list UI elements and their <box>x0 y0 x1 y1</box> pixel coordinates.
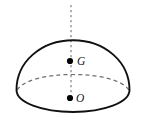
hemisphere-diagram: G O <box>0 0 145 123</box>
point-g-dot <box>67 58 73 64</box>
base-rim-hidden-arc <box>17 75 129 91</box>
point-o-dot <box>67 95 73 101</box>
hemisphere-figure: G O <box>0 0 145 123</box>
hemisphere-outline <box>17 40 130 112</box>
point-g-label: G <box>77 55 86 67</box>
point-o-label: O <box>76 92 85 104</box>
